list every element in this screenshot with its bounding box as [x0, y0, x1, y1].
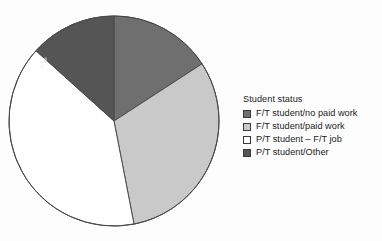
legend-swatch-ft-no-paid-work — [243, 110, 251, 118]
pie-slice-group — [9, 16, 219, 226]
legend-title: Student status — [243, 93, 379, 105]
legend-swatch-ft-paid-work — [243, 123, 251, 131]
legend-item[interactable]: F/T student/no paid work — [243, 107, 379, 120]
legend-item[interactable]: P/T student/Other — [243, 146, 379, 159]
legend-item[interactable]: F/T student/paid work — [243, 120, 379, 133]
legend-item-label: P/T student – F/T job — [256, 133, 342, 146]
pie-chart-figure: Student status F/T student/no paid workF… — [0, 0, 382, 241]
legend-swatch-pt-ft-job — [243, 136, 251, 144]
legend: Student status F/T student/no paid workF… — [243, 93, 379, 159]
pie-chart-plot-area — [8, 13, 220, 230]
legend-item-label: P/T student/Other — [256, 146, 329, 159]
legend-swatch-pt-other — [243, 149, 251, 157]
legend-item-label: F/T student/no paid work — [256, 107, 357, 120]
pie-chart-svg — [8, 13, 220, 230]
legend-item[interactable]: P/T student – F/T job — [243, 133, 379, 146]
legend-item-label: F/T student/paid work — [256, 120, 345, 133]
legend-items: F/T student/no paid workF/T student/paid… — [243, 107, 379, 159]
